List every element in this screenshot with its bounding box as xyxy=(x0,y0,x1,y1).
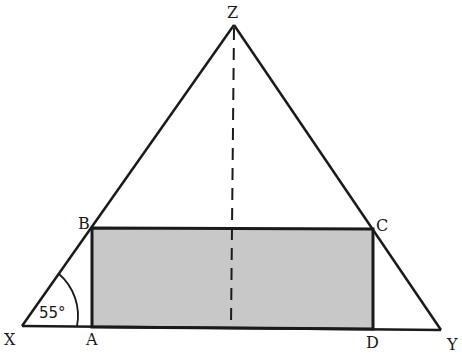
label-x: X xyxy=(4,330,16,349)
label-z: Z xyxy=(227,3,238,22)
rectangle-abcd xyxy=(92,228,373,329)
label-d: D xyxy=(366,333,379,352)
label-c: C xyxy=(376,216,388,235)
label-b: B xyxy=(78,214,90,233)
diagram-svg: Z X Y A B C D 55° xyxy=(0,0,462,353)
geometry-diagram: Z X Y A B C D 55° xyxy=(0,0,462,353)
angle-label-55: 55° xyxy=(39,304,66,322)
label-a: A xyxy=(85,330,98,349)
label-y: Y xyxy=(446,335,458,353)
